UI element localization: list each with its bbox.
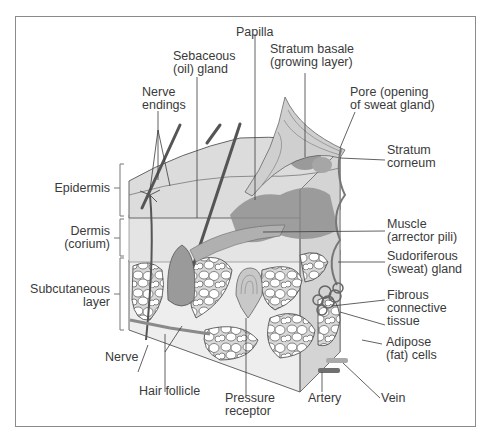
label-dermis: Dermis(corium) [40, 225, 110, 251]
label-papilla: Papilla [236, 26, 274, 39]
label-sudoriferous-gland: Sudoriferous(sweat) gland [387, 250, 462, 276]
label-stratum-basale: Stratum basale(growing layer) [270, 43, 354, 69]
label-adipose-cells: Adipose(fat) cells [386, 336, 437, 362]
label-pore: Pore (openingof sweat gland) [350, 86, 435, 112]
label-nerve: Nerve [105, 351, 138, 364]
label-stratum-corneum: Stratumcorneum [387, 144, 436, 170]
label-muscle: Muscle(arrector pili) [387, 218, 457, 244]
label-sebaceous-gland: Sebaceous(oil) gland [173, 50, 236, 76]
label-pressure-receptor: Pressurereceptor [225, 392, 275, 418]
label-vein: Vein [381, 392, 405, 405]
label-nerve-endings: Nerveendings [142, 86, 186, 112]
label-artery: Artery [308, 392, 341, 405]
label-fibrous-connective-tissue: Fibrousconnectivetissue [387, 289, 447, 328]
skin-block [129, 97, 348, 392]
label-hair-follicle: Hair follicle [139, 385, 200, 398]
label-subcutaneous-layer: Subcutaneouslayer [20, 283, 110, 309]
label-epidermis: Epidermis [40, 182, 110, 195]
layer-brackets [114, 164, 124, 330]
